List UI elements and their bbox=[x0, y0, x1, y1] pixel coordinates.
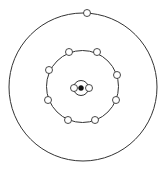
electron-icon bbox=[92, 117, 99, 124]
electron-icon bbox=[113, 97, 120, 104]
electron-icon bbox=[94, 49, 101, 56]
electron-icon bbox=[71, 85, 78, 92]
nucleus-icon bbox=[79, 86, 84, 91]
electron-icon bbox=[84, 10, 91, 17]
electron-icon bbox=[65, 117, 72, 124]
electron-icon bbox=[114, 72, 121, 79]
electron-icon bbox=[45, 97, 52, 104]
electron-icon bbox=[46, 67, 53, 74]
atom-diagram bbox=[0, 0, 164, 169]
electron-icon bbox=[66, 49, 73, 56]
electron-icon bbox=[86, 85, 93, 92]
